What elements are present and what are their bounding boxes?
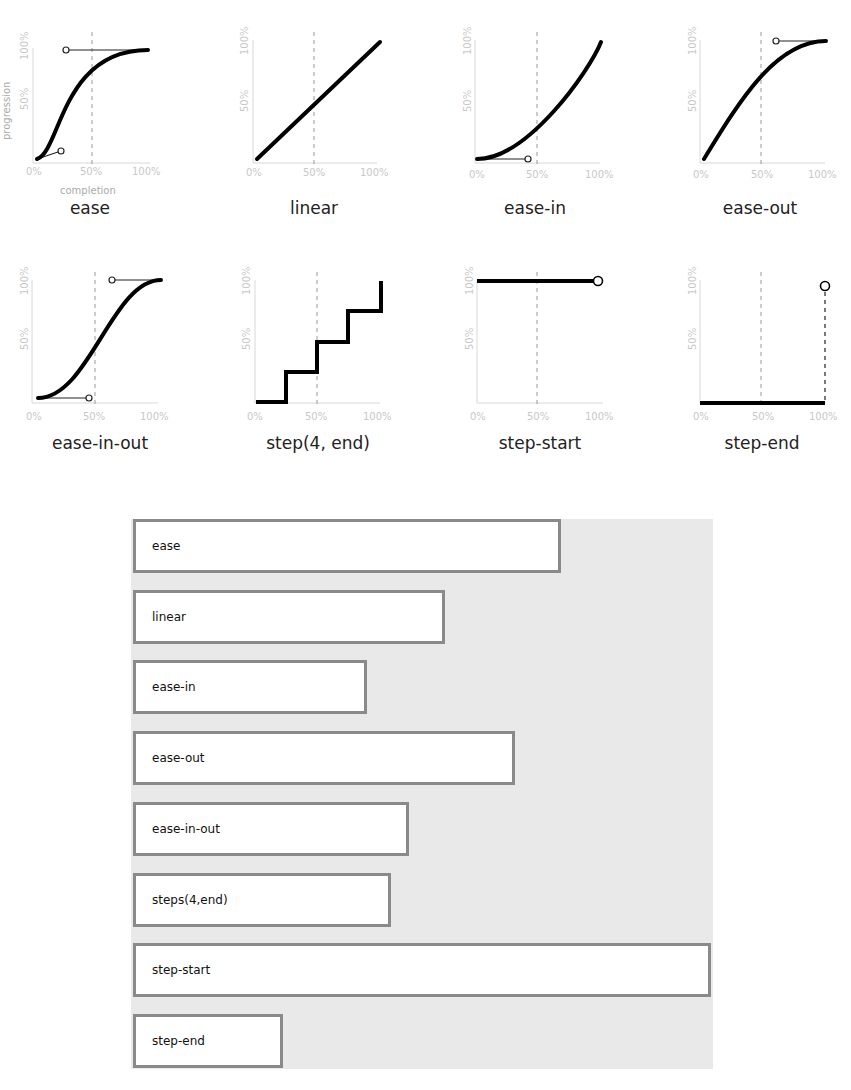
svg-text:100%: 100%: [687, 266, 698, 295]
ease-curve-plot: 0% 50% 100% 50% 100% completion progress…: [0, 0, 210, 210]
svg-text:50%: 50%: [19, 88, 30, 110]
chart-title: ease-out: [660, 198, 851, 218]
linear-curve-plot: 0% 50% 100% 50% 100%: [220, 0, 430, 210]
svg-text:progression: progression: [1, 82, 12, 140]
svg-text:0%: 0%: [469, 169, 485, 180]
step-start-curve-plot: 0% 50% 100% 50% 100%: [440, 250, 650, 450]
bar-linear[interactable]: linear: [133, 590, 445, 644]
svg-text:100%: 100%: [808, 169, 837, 180]
svg-text:50%: 50%: [19, 328, 30, 350]
svg-text:0%: 0%: [26, 411, 42, 422]
svg-text:50%: 50%: [687, 90, 698, 112]
chart-title: step(4, end): [218, 433, 418, 453]
bar-steps-4-end[interactable]: steps(4,end): [133, 873, 391, 927]
svg-text:100%: 100%: [19, 31, 30, 60]
svg-text:0%: 0%: [247, 411, 263, 422]
svg-text:100%: 100%: [464, 266, 475, 295]
svg-text:50%: 50%: [239, 90, 250, 112]
bar-label: ease: [152, 539, 180, 553]
svg-text:0%: 0%: [470, 411, 486, 422]
svg-text:50%: 50%: [305, 411, 327, 422]
bar-label: steps(4,end): [152, 893, 228, 907]
bar-step-start[interactable]: step-start: [133, 943, 711, 997]
steps-curve-plot: 0% 50% 100% 50% 100%: [220, 250, 440, 450]
control-point-icon: [86, 395, 92, 401]
control-point-icon: [63, 47, 69, 53]
svg-text:100%: 100%: [241, 266, 252, 295]
chart-linear: 0% 50% 100% 50% 100% linear: [220, 0, 430, 230]
svg-text:0%: 0%: [693, 411, 709, 422]
svg-text:100%: 100%: [687, 26, 698, 55]
open-endpoint-icon: [821, 282, 830, 291]
chart-ease-in-out: 0% 50% 100% 50% 100% ease-in-out: [0, 250, 220, 470]
chart-title: linear: [214, 198, 414, 218]
svg-text:100%: 100%: [140, 411, 169, 422]
chart-step-end: 0% 50% 100% 50% 100% step-end: [660, 250, 851, 470]
chart-title: ease-in: [435, 198, 635, 218]
svg-text:50%: 50%: [751, 169, 773, 180]
svg-text:50%: 50%: [462, 90, 473, 112]
svg-text:50%: 50%: [80, 166, 102, 177]
chart-ease: 0% 50% 100% 50% 100% completion progress…: [0, 0, 210, 210]
svg-text:50%: 50%: [83, 411, 105, 422]
svg-text:100%: 100%: [462, 26, 473, 55]
bar-ease-in[interactable]: ease-in: [133, 660, 367, 714]
bar-ease-in-out[interactable]: ease-in-out: [133, 802, 409, 856]
bar-label: step-end: [152, 1034, 205, 1048]
chart-ease-out: 0% 50% 100% 50% 100% ease-out: [660, 0, 851, 230]
ease-in-out-curve-plot: 0% 50% 100% 50% 100%: [0, 250, 220, 450]
chart-title: ease-in-out: [0, 433, 200, 453]
chart-title: step-start: [440, 433, 640, 453]
control-point-icon: [109, 277, 115, 283]
bar-ease-out[interactable]: ease-out: [133, 731, 515, 785]
svg-text:0%: 0%: [246, 167, 262, 178]
svg-text:0%: 0%: [693, 169, 709, 180]
chart-title: step-end: [662, 433, 851, 453]
bar-label: ease-in-out: [152, 822, 220, 836]
bar-label: ease-in: [152, 680, 196, 694]
control-point-icon: [525, 156, 531, 162]
chart-ease-in: 0% 50% 100% 50% 100% ease-in: [440, 0, 650, 230]
svg-text:100%: 100%: [19, 266, 30, 295]
svg-text:100%: 100%: [585, 169, 614, 180]
control-point-icon: [773, 38, 779, 44]
svg-text:50%: 50%: [752, 411, 774, 422]
ease-out-curve-plot: 0% 50% 100% 50% 100%: [660, 0, 851, 210]
svg-text:100%: 100%: [363, 411, 392, 422]
timing-bars-panel: ease linear ease-in ease-out ease-in-out…: [131, 519, 713, 1069]
svg-text:100%: 100%: [585, 411, 614, 422]
svg-text:50%: 50%: [241, 328, 252, 350]
control-point-icon: [58, 148, 64, 154]
bar-label: step-start: [152, 963, 210, 977]
bar-label: ease-out: [152, 751, 205, 765]
bar-label: linear: [152, 610, 186, 624]
svg-text:50%: 50%: [526, 169, 548, 180]
chart-step-start: 0% 50% 100% 50% 100% step-start: [440, 250, 650, 470]
svg-text:50%: 50%: [687, 328, 698, 350]
svg-text:100%: 100%: [132, 166, 161, 177]
svg-text:50%: 50%: [527, 411, 549, 422]
svg-text:100%: 100%: [239, 26, 250, 55]
svg-text:0%: 0%: [26, 166, 42, 177]
svg-text:50%: 50%: [464, 328, 475, 350]
ease-in-curve-plot: 0% 50% 100% 50% 100%: [440, 0, 650, 210]
bar-ease[interactable]: ease: [133, 519, 561, 573]
open-endpoint-icon: [594, 277, 603, 286]
svg-text:completion: completion: [60, 185, 116, 196]
svg-text:100%: 100%: [360, 167, 389, 178]
bar-step-end[interactable]: step-end: [133, 1014, 283, 1068]
chart-steps-4-end: 0% 50% 100% 50% 100% step(4, end): [220, 250, 440, 470]
svg-text:50%: 50%: [303, 167, 325, 178]
chart-title: ease: [0, 198, 190, 218]
step-end-curve-plot: 0% 50% 100% 50% 100%: [660, 250, 851, 450]
svg-text:100%: 100%: [809, 411, 838, 422]
